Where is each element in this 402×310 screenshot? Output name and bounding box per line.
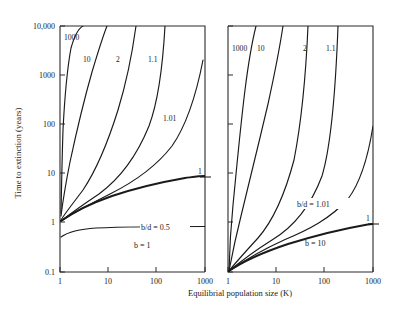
curve-label-right-2: 2 [303, 44, 307, 53]
y-tick-10: 10 [47, 169, 55, 178]
y-tick-1: 1 [51, 218, 55, 227]
right-x-tick-10: 10 [272, 277, 280, 286]
left-x-tick-100: 100 [150, 277, 162, 286]
curve-label-left-2: 2 [116, 55, 120, 64]
right-panel-frame-box [228, 26, 373, 272]
right-x-tick-1000: 1000 [365, 277, 381, 286]
left-panel: 10,000 1000 100 10 1 0.1 1 10 100 1000 [33, 22, 213, 286]
curve-label-left-1.1: 1.1 [148, 55, 158, 64]
curve-label-left-1000: 1000 [64, 33, 79, 42]
curve-label-right-1.1: 1.1 [326, 44, 336, 53]
curve-right-10 [229, 26, 283, 271]
curve-left-2 [61, 26, 136, 220]
figure-svg: 10,000 1000 100 10 1 0.1 1 10 100 1000 [0, 0, 402, 310]
ratio-legend-left: b/d = 0.5 [141, 223, 170, 232]
curve-label-right-10: 10 [257, 44, 265, 53]
y-tick-10000: 10,000 [33, 22, 55, 31]
panel-annotation-right: b = 10 [305, 239, 326, 248]
left-panel-x-ticks [60, 267, 205, 272]
y-axis-title: Time to extinction (years) [13, 83, 23, 223]
left-panel-axis-lines [60, 26, 205, 272]
y-tick-1000: 1000 [39, 71, 55, 80]
curve-label-left-10: 10 [83, 55, 91, 64]
figure-container: 10,000 1000 100 10 1 0.1 1 10 100 1000 [0, 0, 402, 310]
left-x-tick-1000: 1000 [197, 277, 213, 286]
panel-annotation-left: b = 1 [134, 241, 151, 250]
x-axis-title: Equilibrial population size (K) [120, 288, 360, 298]
right-x-tick-1: 1 [226, 277, 230, 286]
right-panel-x-ticks [228, 267, 373, 272]
right-x-tick-100: 100 [318, 277, 330, 286]
curve-right-1 [229, 224, 373, 271]
curve-left-1.01 [61, 60, 203, 221]
y-tick-100: 100 [43, 120, 55, 129]
right-panel: 1 10 100 1000 1000 10 2 1.1 [226, 26, 381, 286]
curve-label-right-1: 1 [366, 214, 370, 223]
curve-label-left-1.01: 1.01 [163, 114, 176, 123]
right-panel-axis-lines [228, 26, 373, 272]
curve-right-1000 [229, 26, 256, 271]
right-panel-curves [229, 26, 373, 271]
left-panel-frame-box [60, 26, 205, 272]
curve-label-left-1: 1 [198, 167, 202, 176]
y-tick-0.1: 0.1 [45, 268, 55, 277]
ratio-legend-right: b/d = 1.01 [297, 200, 330, 209]
curve-label-right-1000: 1000 [232, 44, 247, 53]
left-x-tick-10: 10 [104, 277, 112, 286]
curve-left-1 [61, 176, 205, 221]
left-x-tick-1: 1 [58, 277, 62, 286]
